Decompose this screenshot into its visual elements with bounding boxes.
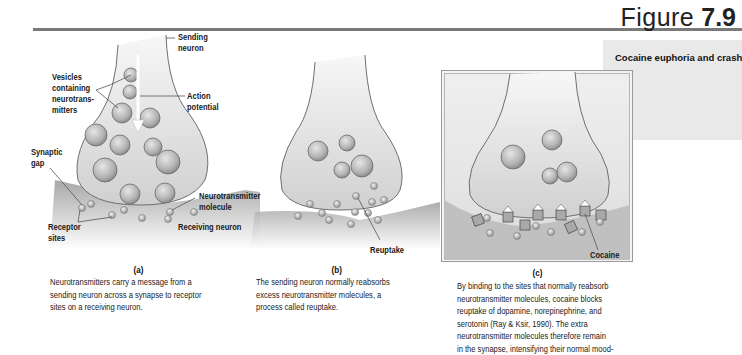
panel-b-drawing [250, 55, 440, 250]
caption-line: The sending neuron normally reabsorbs [256, 276, 390, 289]
caption-line: Neurotransmitters carry a message from a [50, 276, 201, 289]
label-line: containing [52, 83, 94, 94]
caption-line: neurotransmitter molecules, cocaine bloc… [457, 293, 613, 306]
label-line: Synaptic [31, 147, 63, 158]
caption-line: sites on a receiving neuron. [50, 301, 201, 314]
label-reuptake: Reuptake [370, 245, 404, 256]
panel-a-caption: Neurotransmitters carry a message from a… [50, 276, 201, 314]
label-line: sites [48, 233, 81, 244]
caption-line: neurotransmitter molecules therefore rem… [457, 330, 613, 343]
label-receptor-sites: Receptor sites [48, 222, 81, 244]
panel-c-caption: By binding to the sites that normally re… [457, 280, 613, 355]
label-vesicles: Vesicles containing neurotrans- mitters [52, 72, 94, 116]
caption-line: reuptake of dopamine, norepinephrine, an… [457, 305, 613, 318]
panel-c-sublabel: (c) [533, 268, 543, 278]
caption-line: By binding to the sites that normally re… [457, 280, 613, 293]
label-line: Neurotransmitter [199, 191, 260, 202]
panel-b-sublabel: (b) [332, 265, 342, 275]
label-cocaine: Cocaine [590, 250, 619, 261]
label-sending-neuron: Sending neuron [178, 32, 208, 54]
label-line: Sending [178, 32, 208, 43]
label-line: Vesicles [52, 72, 94, 83]
label-action-potential: Action potential [187, 91, 219, 113]
label-line: potential [187, 102, 219, 113]
panel-a-drawing [50, 35, 260, 250]
caption-line: sending neuron across a synapse to recep… [50, 289, 201, 302]
caption-line: in the synapse, intensifying their norma… [457, 343, 613, 355]
label-line: Receptor [48, 222, 81, 233]
label-line: molecule [199, 202, 260, 213]
caption-line: process called reuptake. [256, 301, 390, 314]
label-line: gap [31, 158, 63, 169]
panel-a-sublabel: (a) [134, 265, 144, 275]
label-line: mitters [52, 105, 94, 116]
label-line: neuron [178, 43, 208, 54]
caption-line: serotonin (Ray & Ksir, 1990). The extra [457, 318, 613, 331]
label-neurotransmitter-molecule: Neurotransmitter molecule [199, 191, 260, 213]
label-synaptic-gap: Synaptic gap [31, 147, 63, 169]
panel-c-drawing [444, 72, 630, 260]
label-line: Action [187, 91, 219, 102]
panel-b-caption: The sending neuron normally reabsorbs ex… [256, 276, 390, 314]
caption-line: excess neurotransmitter molecules, a [256, 289, 390, 302]
label-receiving-neuron: Receiving neuron [178, 222, 241, 233]
label-line: neurotrans- [52, 94, 94, 105]
